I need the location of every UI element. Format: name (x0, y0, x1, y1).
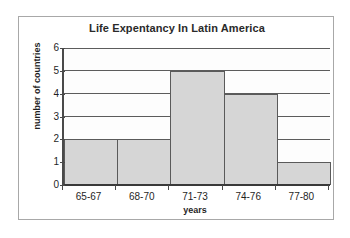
bar (117, 139, 171, 185)
y-axis-tick-label: 5 (41, 66, 59, 76)
x-axis-label: years (62, 205, 328, 215)
x-axis-tick-label: 68-70 (112, 191, 172, 202)
x-axis-tick-mark (115, 185, 116, 190)
bar (224, 94, 278, 185)
y-axis-tick-mark (60, 48, 65, 49)
y-axis-tick-label: 2 (41, 134, 59, 144)
chart-title: Life Expentancy In Latin America (19, 22, 335, 34)
bar (170, 71, 224, 185)
plot-area (62, 48, 330, 185)
x-axis-tick-label: 77-80 (271, 191, 331, 202)
bar (64, 139, 118, 185)
chart-frame: Life Expentancy In Latin America number … (18, 16, 334, 220)
bar-series (64, 48, 330, 185)
x-axis-tick-mark (222, 185, 223, 190)
y-axis-tick-mark (60, 71, 65, 72)
y-axis-tick-label: 1 (41, 157, 59, 167)
x-axis-tick-mark (62, 185, 63, 190)
y-axis-tick-label: 6 (41, 43, 59, 53)
x-axis-tick-mark (275, 185, 276, 190)
y-axis-tick-label: 3 (41, 112, 59, 122)
x-axis-tick-label: 74-76 (218, 191, 278, 202)
y-axis-tick-mark (60, 94, 65, 95)
y-axis-tick-label: 4 (41, 89, 59, 99)
x-axis-tick-label: 71-73 (165, 191, 225, 202)
y-axis-tick-labels: 0123456 (41, 41, 59, 185)
y-axis-tick-mark (60, 117, 65, 118)
x-axis-tick-mark (168, 185, 169, 190)
x-axis-tick-label: 65-67 (59, 191, 119, 202)
x-axis-tick-mark (328, 185, 329, 190)
bar (277, 162, 331, 185)
y-axis-tick-mark (60, 139, 65, 140)
x-axis-line (64, 184, 330, 186)
y-axis-tick-label: 0 (41, 180, 59, 190)
y-axis-tick-mark (60, 162, 65, 163)
